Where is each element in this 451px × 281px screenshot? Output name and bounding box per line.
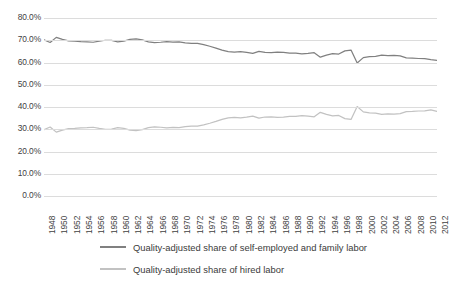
plot-area [44,18,437,196]
legend-item-hired: Quality-adjusted share of hired labor [0,260,451,278]
series-line-self-employed [44,37,437,63]
x-axis-tick-label: 1964 [145,216,155,234]
x-axis-tick-label: 1948 [47,216,57,234]
gridline [44,63,437,64]
x-axis-tick-label: 1954 [84,216,94,234]
x-axis-tick-label: 2010 [428,216,438,234]
x-axis-tick-label: 1950 [59,216,69,234]
x-axis-tick-label: 1978 [231,216,241,234]
x-axis-tick-label: 1986 [281,216,291,234]
x-axis-tick-label: 1994 [330,216,340,234]
legend-swatch-hired [100,268,126,270]
x-axis-tick-label: 1968 [170,216,180,234]
gridline [44,40,437,41]
x-axis-tick-label: 1966 [158,216,168,234]
x-axis-tick-label: 2008 [416,216,426,234]
x-axis-tick-label: 2006 [403,216,413,234]
y-axis-tick-label: 30.0% [18,124,41,133]
x-axis-tick-label: 1952 [72,216,82,234]
gridline [44,196,437,197]
x-axis-tick-label: 1960 [121,216,131,234]
x-axis-tick-label: 1990 [305,216,315,234]
x-axis-tick-label: 1956 [96,216,106,234]
x-axis-tick-label: 1958 [109,216,119,234]
gridline [44,129,437,130]
x-axis-tick-label: 2012 [440,216,450,234]
y-axis-tick-label: 50.0% [18,80,41,89]
x-axis-tick-label: 1998 [354,216,364,234]
y-axis-tick-label: 60.0% [18,58,41,67]
y-axis-tick-label: 10.0% [18,169,41,178]
legend-swatch-self-employed [100,246,126,248]
legend-label-hired: Quality-adjusted share of hired labor [133,264,284,275]
gridline [44,174,437,175]
x-axis-tick-label: 1980 [244,216,254,234]
x-axis-tick-label: 1970 [182,216,192,234]
y-axis-tick-label: 70.0% [18,35,41,44]
x-axis-tick-label: 1988 [293,216,303,234]
gridline [44,107,437,108]
y-axis-tick-label: 80.0% [18,13,41,22]
x-axis-tick-label: 2004 [391,216,401,234]
y-axis-tick-label: 0.0% [22,191,41,200]
gridline [44,85,437,86]
x-axis-tick-label: 1992 [317,216,327,234]
x-axis-tick-label: 1972 [195,216,205,234]
x-axis-tick-label: 2000 [367,216,377,234]
y-axis-tick-label: 40.0% [18,102,41,111]
x-axis-tick-label: 1962 [133,216,143,234]
y-axis-labels: 80.0%70.0%60.0%50.0%40.0%30.0%20.0%10.0%… [0,0,41,200]
x-axis-tick-label: 1974 [207,216,217,234]
x-axis-tick-label: 2002 [379,216,389,234]
x-axis-tick-label: 1982 [256,216,266,234]
gridline [44,152,437,153]
y-axis-tick-label: 20.0% [18,147,41,156]
legend-label-self-employed: Quality-adjusted share of self-employed … [133,242,367,253]
x-axis-labels: 1948195019521954195619581960196219641966… [44,198,437,236]
x-axis-tick-label: 1984 [268,216,278,234]
line-chart: 80.0%70.0%60.0%50.0%40.0%30.0%20.0%10.0%… [0,0,451,281]
legend-item-self-employed: Quality-adjusted share of self-employed … [0,238,451,256]
x-axis-tick-label: 1996 [342,216,352,234]
x-axis-tick-label: 1976 [219,216,229,234]
gridline [44,18,437,19]
chart-legend: Quality-adjusted share of self-employed … [0,238,451,281]
